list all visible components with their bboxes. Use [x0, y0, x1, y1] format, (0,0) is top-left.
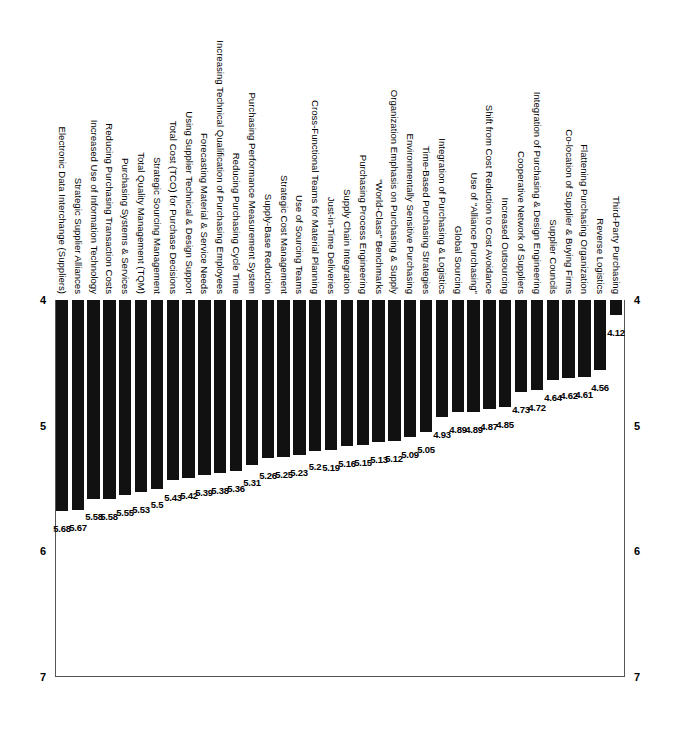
bar[interactable] — [483, 300, 495, 409]
bar[interactable] — [467, 300, 479, 412]
bar[interactable] — [594, 300, 606, 370]
bar[interactable] — [56, 300, 68, 511]
bar-row[interactable]: 5.25Strategic Cost Management — [277, 300, 289, 677]
category-label: Increasing Technical Qualification of Pu… — [215, 40, 225, 294]
bar-row[interactable]: 4.85Increased Outsourcing — [499, 300, 511, 677]
bar[interactable] — [293, 300, 305, 455]
bar[interactable] — [198, 300, 210, 475]
bar-row[interactable]: 4.61Flattening Purchasing Organization — [578, 300, 590, 677]
bar-row[interactable]: 4.72Integration of Purchasing & Design E… — [531, 300, 543, 677]
bar-value-label: 5.53 — [132, 505, 150, 516]
bar-row[interactable]: 4.89Global Sourcing — [452, 300, 464, 677]
bar-row[interactable]: 4.73Cooperative Network of Suppliers — [515, 300, 527, 677]
bar-row[interactable]: 5.38Increasing Technical Qualification o… — [214, 300, 226, 677]
bar-value-label: 5.55 — [116, 507, 134, 518]
bar-chart-figure: 44556677 4.12Third-Party Purchasing4.56R… — [0, 0, 681, 748]
bar-row[interactable]: 5.05Time-Based Purchasing Strategies — [420, 300, 432, 677]
bar-value-label: 5.25 — [275, 469, 293, 480]
bar-row[interactable]: 5.13"World-Class" Benchmarks — [372, 300, 384, 677]
category-label: Reducing Purchasing Cycle Time — [231, 153, 241, 294]
bar-row[interactable]: 5.12Organization Emphasis on Purchasing … — [388, 300, 400, 677]
bar-row[interactable]: 4.87Shift from Cost Reduction to Cost Av… — [483, 300, 495, 677]
bar[interactable] — [135, 300, 147, 492]
bar[interactable] — [167, 300, 179, 480]
bar-row[interactable]: 5.5Strategic Sourcing Management — [151, 300, 163, 677]
bar[interactable] — [182, 300, 194, 478]
bar[interactable] — [87, 300, 99, 499]
value-axis-tick-label: 5 — [634, 420, 640, 432]
category-label: Increased Use of Information Technology — [89, 120, 99, 294]
bar[interactable] — [499, 300, 511, 407]
category-label: Strategic Sourcing Management — [152, 157, 162, 294]
bar[interactable] — [562, 300, 574, 378]
bar[interactable] — [420, 300, 432, 432]
bar[interactable] — [325, 300, 337, 450]
bar-row[interactable]: 5.39Forecasting Material & Service Needs — [198, 300, 210, 677]
bar-row[interactable]: 5.19Just-in-Time Deliveries — [325, 300, 337, 677]
bar-row[interactable]: 5.58Reducing Purchasing Transaction Cost… — [103, 300, 115, 677]
bar-row[interactable]: 4.62Co-location of Supplier & Buying Fir… — [562, 300, 574, 677]
bar-row[interactable]: 5.2Cross-Functional Teams for Material P… — [309, 300, 321, 677]
bar-row[interactable]: 4.64Supplier Councils — [547, 300, 559, 677]
bar-value-label: 5.67 — [69, 522, 87, 533]
bar[interactable] — [246, 300, 258, 465]
bar-value-label: 4.62 — [560, 390, 578, 401]
bar-row[interactable]: 5.42Using Supplier Technical & Design Su… — [182, 300, 194, 677]
bar-row[interactable]: 5.36Reducing Purchasing Cycle Time — [230, 300, 242, 677]
bar-row[interactable]: 5.58Increased Use of Information Technol… — [87, 300, 99, 677]
bar-value-label: 5.38 — [211, 486, 229, 497]
bar[interactable] — [151, 300, 163, 489]
bar[interactable] — [309, 300, 321, 451]
bar[interactable] — [404, 300, 416, 437]
bar-row[interactable]: 5.09Environmentally Sensitive Purchasing — [404, 300, 416, 677]
bar-row[interactable]: 4.93Integration of Purchasing & Logistic… — [436, 300, 448, 677]
category-label: "World-Class" Benchmarks — [374, 179, 384, 294]
bar[interactable] — [578, 300, 590, 377]
bar[interactable] — [357, 300, 369, 445]
bar[interactable] — [372, 300, 384, 442]
bar-value-label: 4.89 — [449, 424, 467, 435]
bar-value-label: 4.72 — [528, 403, 546, 414]
bar-row[interactable]: 5.55Purchasing Systems & Services — [119, 300, 131, 677]
bar-value-label: 5.15 — [354, 457, 372, 468]
bar-value-label: 5.5 — [151, 498, 164, 509]
bar[interactable] — [388, 300, 400, 441]
category-label: Supply Chain Integration — [342, 189, 352, 294]
bar[interactable] — [262, 300, 274, 458]
bar-row[interactable]: 5.43Total Cost (TCO) for Purchase Decisi… — [167, 300, 179, 677]
bar[interactable] — [214, 300, 226, 473]
bar-value-label: 5.68 — [53, 523, 71, 534]
bar-row[interactable]: 5.16Supply Chain Integration — [341, 300, 353, 677]
bar[interactable] — [610, 300, 622, 315]
bar[interactable] — [531, 300, 543, 390]
bar[interactable] — [436, 300, 448, 417]
value-axis-tick-label: 4 — [40, 294, 46, 306]
bar-value-label: 5.2 — [309, 461, 322, 472]
bar-row[interactable]: 5.53Total Quality Management (TQM) — [135, 300, 147, 677]
bar-row[interactable]: 4.56Reverse Logistics — [594, 300, 606, 677]
value-axis-tick-label: 6 — [634, 545, 640, 557]
bar-row[interactable]: 5.31Purchasing Performance Measurement S… — [246, 300, 258, 677]
bar[interactable] — [452, 300, 464, 412]
bar-row[interactable]: 5.23Use of Sourcing Teams — [293, 300, 305, 677]
bar-row[interactable]: 4.89Use of "Alliance Purchasing" — [467, 300, 479, 677]
bar[interactable] — [103, 300, 115, 499]
bar-row[interactable]: 5.26Supply-Base Reduction — [262, 300, 274, 677]
category-label: Increased Outsourcing — [500, 197, 510, 294]
category-label: Reducing Purchasing Transaction Costs — [105, 123, 115, 294]
bar[interactable] — [547, 300, 559, 380]
bar[interactable] — [119, 300, 131, 495]
bar[interactable] — [341, 300, 353, 446]
bar[interactable] — [72, 300, 84, 510]
bar[interactable] — [515, 300, 527, 392]
category-label: Just-in-Time Deliveries — [326, 197, 336, 294]
bar-row[interactable]: 5.67Strategic Supplier Alliances — [72, 300, 84, 677]
bar-row[interactable]: 5.68Electronic Data Interchange (Supplie… — [56, 300, 68, 677]
category-label: Integration of Purchasing & Logistics — [437, 138, 447, 294]
bar-row[interactable]: 4.12Third-Party Purchasing — [610, 300, 622, 677]
bar-row[interactable]: 5.15Purchasing Process Engineering — [357, 300, 369, 677]
bar[interactable] — [277, 300, 289, 457]
category-label: Cooperative Network of Suppliers — [516, 151, 526, 294]
bar[interactable] — [230, 300, 242, 471]
value-axis-tick-label: 5 — [40, 420, 46, 432]
